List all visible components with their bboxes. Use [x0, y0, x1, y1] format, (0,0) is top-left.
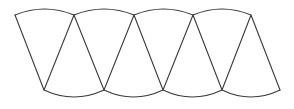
zigzag-line	[15, 15, 280, 90]
top-arc	[193, 9, 251, 15]
top-arc	[134, 9, 193, 15]
top-arc	[15, 9, 74, 15]
arc-edges	[15, 9, 280, 97]
curved-triangle-strip	[0, 0, 294, 109]
bottom-arc	[222, 90, 280, 97]
bottom-arc	[44, 90, 104, 97]
zigzag-edges	[15, 15, 280, 90]
top-arc	[74, 9, 134, 15]
diagram-canvas: Alternating curved-triangle strip	[0, 0, 294, 109]
bottom-arc	[104, 90, 163, 97]
bottom-arc	[163, 90, 222, 97]
